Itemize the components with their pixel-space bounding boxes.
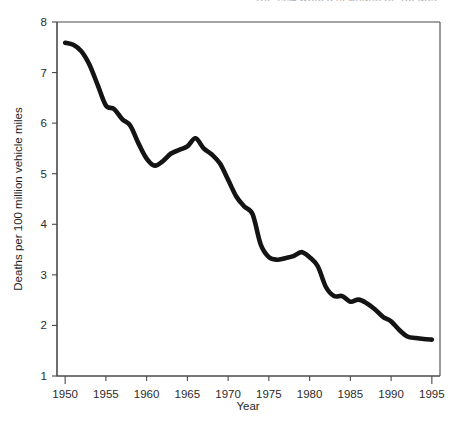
chart-axes bbox=[57, 22, 440, 376]
series-line-0 bbox=[65, 43, 432, 340]
y-tick-label: 8 bbox=[41, 16, 47, 28]
y-axis-tick-labels: 12345678 bbox=[41, 16, 48, 382]
y-tick-label: 6 bbox=[41, 117, 47, 129]
x-tick-label: 1985 bbox=[338, 388, 364, 400]
y-tick-label: 5 bbox=[41, 168, 47, 180]
x-tick-label: 1975 bbox=[256, 388, 282, 400]
x-tick-label: 1970 bbox=[215, 388, 241, 400]
y-tick-label: 7 bbox=[41, 67, 47, 79]
axis-left-bottom bbox=[57, 22, 440, 376]
y-tick-label: 3 bbox=[41, 269, 47, 281]
x-tick-label: 1950 bbox=[52, 388, 78, 400]
x-axis-ticks bbox=[65, 376, 432, 384]
line-chart: 12345678 1950195519601965197019751980198… bbox=[0, 0, 460, 425]
axis-frame bbox=[57, 22, 440, 376]
y-tick-label: 4 bbox=[41, 218, 48, 230]
x-tick-label: 1995 bbox=[419, 388, 445, 400]
x-tick-label: 1990 bbox=[378, 388, 404, 400]
x-tick-label: 1965 bbox=[175, 388, 201, 400]
x-axis-title: Year bbox=[236, 400, 259, 412]
y-axis-title: Deaths per 100 million vehicle miles bbox=[12, 107, 24, 291]
x-tick-label: 1980 bbox=[297, 388, 323, 400]
x-axis-tick-labels: 1950195519601965197019751980198519901995 bbox=[52, 388, 444, 400]
chart-figure: THE 1994 WORLD ALMANAC OF TRENDS 1234567… bbox=[0, 0, 460, 425]
y-tick-label: 1 bbox=[41, 370, 47, 382]
chart-series-group bbox=[65, 43, 432, 340]
y-axis-ticks bbox=[52, 22, 57, 376]
y-tick-label: 2 bbox=[41, 319, 47, 331]
x-tick-label: 1955 bbox=[93, 388, 119, 400]
x-tick-label: 1960 bbox=[134, 388, 160, 400]
cropped-header-text: THE 1994 WORLD ALMANAC OF TRENDS bbox=[255, 0, 455, 1]
